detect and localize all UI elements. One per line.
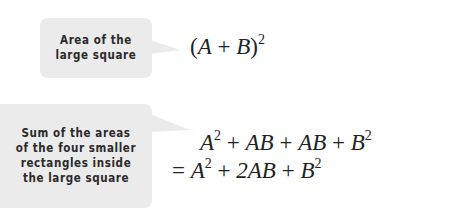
callout-pointer: [150, 114, 190, 136]
callout-area-large-square: Area of the large square: [40, 18, 152, 78]
callout-line: Sum of the areas: [0, 126, 152, 141]
callout-line: Area of the: [40, 33, 152, 48]
equation-expanded: A2 + AB + AB + B2: [200, 130, 372, 156]
callout-line: the large square: [0, 171, 152, 186]
cut-off-text: [22, 214, 142, 224]
callout-pointer: [150, 40, 180, 56]
callout-sum-of-areas: Sum of the areas of the four smaller rec…: [0, 104, 152, 208]
equation-simplified: = A2 + 2AB + B2: [172, 158, 321, 184]
equation-square-of-sum: (A + B)2: [190, 34, 265, 60]
callout-line: large square: [40, 48, 152, 63]
callout-line: of the four smaller: [0, 141, 152, 156]
callout-line: rectangles inside: [0, 156, 152, 171]
